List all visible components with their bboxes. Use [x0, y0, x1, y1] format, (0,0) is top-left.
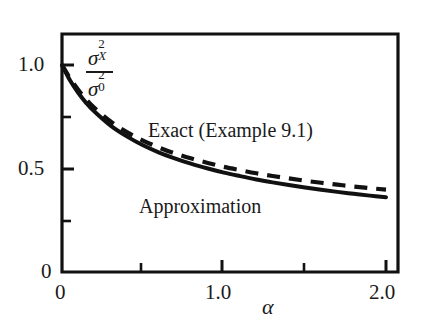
denominator-scripts: 20 [98, 75, 111, 96]
x-tick-label-1.0: 1.0 [205, 282, 231, 303]
y-axis-label-denominator: σ20 [86, 75, 113, 101]
sigma-symbol-denominator: σ [88, 77, 98, 101]
x-axis-title: α [262, 296, 274, 318]
x-tick-label-2.0: 2.0 [369, 282, 395, 303]
chart-plot-area [0, 0, 429, 327]
y-axis-label: σ2X σ20 [86, 44, 113, 100]
denominator-subscript: 0 [98, 80, 105, 94]
chart-figure: 1.0 0.5 0 0 1.0 2.0 α σ2X σ20 Exact (Exa… [0, 0, 429, 327]
numerator-scripts: 2X [98, 44, 111, 65]
y-tick-label-1.0: 1.0 [18, 54, 44, 75]
x-tick-label-0: 0 [55, 282, 66, 303]
y-axis-label-numerator: σ2X [86, 44, 113, 70]
numerator-subscript: X [98, 49, 106, 63]
y-tick-label-0: 0 [41, 261, 52, 282]
annotation-exact: Exact (Example 9.1) [148, 120, 313, 140]
y-tick-label-0.5: 0.5 [18, 158, 44, 179]
sigma-symbol-numerator: σ [88, 46, 98, 70]
annotation-approximation: Approximation [139, 196, 261, 216]
